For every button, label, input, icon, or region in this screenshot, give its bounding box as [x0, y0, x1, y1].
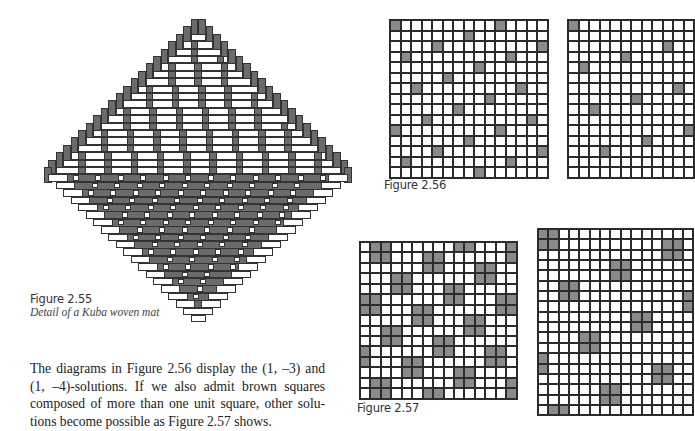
horizontal-strip [176, 49, 221, 56]
kuba-mat-diagram [0, 0, 400, 320]
empty-square [580, 396, 588, 404]
empty-square [611, 126, 620, 135]
empty-square [570, 230, 578, 238]
empty-square [663, 385, 671, 393]
empty-square [475, 53, 484, 62]
empty-square [601, 230, 609, 238]
empty-square [403, 337, 411, 345]
empty-square [539, 282, 547, 290]
empty-square [486, 243, 494, 251]
filled-square [413, 316, 421, 324]
filled-square [570, 292, 578, 300]
empty-square [465, 306, 473, 314]
filled-square [455, 243, 463, 251]
empty-square [611, 230, 619, 238]
empty-square [412, 63, 421, 72]
empty-square [454, 116, 463, 125]
empty-square [663, 261, 671, 269]
empty-square [663, 271, 671, 279]
empty-square [454, 137, 463, 146]
interlace-square [123, 108, 131, 115]
empty-square [622, 313, 630, 321]
interlace-square [194, 63, 202, 70]
interlace-dot [152, 198, 158, 203]
empty-square [382, 295, 390, 303]
empty-square [591, 396, 599, 404]
filled-square [497, 347, 505, 355]
filled-square [476, 264, 484, 272]
empty-square [653, 344, 661, 352]
interlace-dot [234, 257, 240, 262]
empty-square [403, 295, 411, 303]
empty-square [402, 105, 411, 114]
filled-square [361, 295, 369, 303]
filled-square [423, 116, 432, 125]
interlace-dot [178, 279, 184, 284]
empty-square [423, 32, 432, 41]
empty-square [444, 105, 453, 114]
empty-square [590, 63, 599, 72]
interlace-dot [275, 220, 281, 225]
empty-square [580, 42, 589, 51]
empty-square [590, 74, 599, 83]
empty-square [601, 74, 610, 83]
empty-square [486, 168, 495, 177]
empty-square [392, 389, 400, 397]
empty-square [507, 95, 516, 104]
filled-square [560, 406, 568, 414]
empty-square [643, 333, 651, 341]
interlace-dot [133, 235, 139, 240]
filled-square [475, 63, 484, 72]
empty-square [622, 385, 630, 393]
empty-square [434, 316, 442, 324]
empty-square [465, 264, 473, 272]
empty-square [549, 354, 557, 362]
empty-square [507, 264, 515, 272]
interlace-dot [197, 242, 203, 247]
empty-square [528, 147, 537, 156]
empty-square [674, 158, 683, 167]
empty-square [486, 306, 494, 314]
interlace-dot [170, 205, 176, 210]
interlace-square [221, 63, 229, 70]
empty-square [433, 74, 442, 83]
empty-square [538, 158, 547, 167]
empty-square [465, 63, 474, 72]
empty-square [569, 116, 578, 125]
empty-square [632, 63, 641, 72]
filled-square [590, 105, 599, 114]
interlace-square [284, 137, 292, 144]
empty-square [528, 32, 537, 41]
interlace-square [101, 145, 109, 152]
empty-square [580, 230, 588, 238]
empty-square [643, 42, 652, 51]
empty-square [643, 74, 652, 83]
empty-square [465, 358, 473, 366]
empty-square [476, 243, 484, 251]
empty-square [454, 168, 463, 177]
empty-square [444, 168, 453, 177]
empty-square [611, 292, 619, 300]
empty-square [391, 105, 400, 114]
empty-square [643, 365, 651, 373]
empty-square [382, 358, 390, 366]
empty-square [611, 375, 619, 383]
interlace-square [157, 167, 165, 174]
filled-square [434, 389, 442, 397]
filled-square [403, 368, 411, 376]
empty-square [674, 126, 683, 135]
empty-square [643, 261, 651, 269]
empty-square [674, 261, 682, 269]
interlace-dot [294, 183, 300, 188]
empty-square [632, 261, 640, 269]
empty-square [685, 137, 694, 146]
empty-square [549, 302, 557, 310]
empty-square [465, 21, 474, 30]
interlace-dot [174, 242, 180, 247]
interlace-square [176, 123, 184, 130]
empty-square [549, 251, 557, 259]
filled-square [455, 368, 463, 376]
empty-square [685, 21, 694, 30]
interlace-square [179, 137, 187, 144]
empty-square [465, 168, 474, 177]
